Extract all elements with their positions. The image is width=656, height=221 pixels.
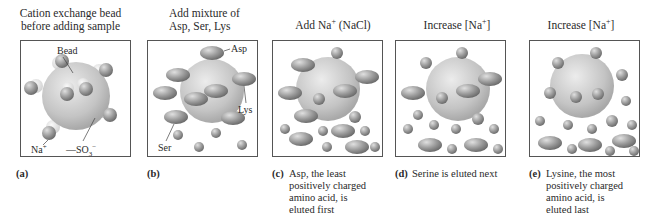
panel-letter: (e) (529, 168, 541, 180)
sodium-label: Na+ (31, 142, 47, 155)
title-line: Add mixture of (169, 7, 279, 20)
title-text: ] (487, 19, 491, 31)
panel-e: Increase [Na+] (e) Lysine, the (516, 0, 646, 221)
title-line: Asp, Ser, Lys (169, 20, 279, 33)
panel-c-title: Add Na+ (NaCl) (268, 15, 398, 32)
title-line: Cation exchange bead (8, 7, 133, 20)
bead-diagram-e (529, 40, 640, 157)
panel-a-title: Cation exchange bead before adding sampl… (8, 7, 133, 33)
panel-a: Cation exchange bead before adding sampl… (8, 0, 138, 221)
caption-line: eluted first (289, 204, 399, 216)
sulfonate-label: —SO3− (66, 142, 96, 159)
title-text: ] (611, 19, 615, 31)
na-sup: + (43, 143, 47, 151)
panel-d: Increase [Na+] (d) Serine is eluted next (392, 0, 522, 221)
title-text: Increase [Na (548, 19, 606, 31)
caption-line: amino acid, is (289, 192, 399, 204)
asp-label: Asp (231, 44, 247, 54)
panel-d-title: Increase [Na+] (392, 15, 522, 32)
panel-e-title: Increase [Na+] (516, 15, 646, 32)
lys-label: Lys (238, 105, 252, 115)
bead-illustration (273, 41, 384, 158)
title-text: (NaCl) (336, 19, 371, 31)
bead-illustration (21, 41, 132, 158)
caption-text: Asp, the least positively charged amino … (289, 168, 399, 216)
so-sup: − (92, 143, 96, 151)
title-text: Add Na (295, 19, 331, 31)
bead-illustration (148, 41, 259, 158)
caption-text: Lysine, the most positively charged amin… (546, 168, 656, 216)
caption-line: Serine is eluted next (412, 168, 522, 180)
caption-line: amino acid, is (546, 192, 656, 204)
caption-line: Asp, the least (289, 168, 399, 180)
bead-diagram-d (395, 40, 506, 157)
title-line: before adding sample (8, 20, 133, 33)
panel-letter: (b) (147, 168, 160, 180)
caption-text: Serine is eluted next (412, 168, 522, 180)
so-sub: 3 (89, 150, 93, 158)
title-text: Increase [Na (424, 19, 482, 31)
caption-line: Lysine, the most (546, 168, 656, 180)
caption-line: positively charged (546, 180, 656, 192)
panel-letter: (a) (16, 168, 28, 180)
panel-b: Add mixture of Asp, Ser, Lys Asp Lys Ser… (137, 0, 267, 221)
caption-line: positively charged (289, 180, 399, 192)
bead-diagram-c (272, 40, 383, 157)
panel-b-title: Add mixture of Asp, Ser, Lys (169, 7, 279, 33)
na-text: Na (31, 144, 43, 155)
ser-label: Ser (158, 143, 171, 153)
caption-line: eluted last (546, 204, 656, 216)
bead-illustration (396, 41, 507, 158)
bead-illustration (530, 41, 641, 158)
so-text: —SO (66, 144, 89, 155)
panel-letter: (d) (395, 168, 408, 180)
panel-c: Add Na+ (NaCl) (c) Asp, the least posi (268, 0, 398, 221)
bead-diagram-a: Bead Na+ —SO3− (20, 40, 131, 157)
panel-letter: (c) (272, 168, 284, 180)
bead-diagram-b: Asp Lys Ser (147, 40, 258, 157)
bead-label: Bead (57, 46, 78, 56)
